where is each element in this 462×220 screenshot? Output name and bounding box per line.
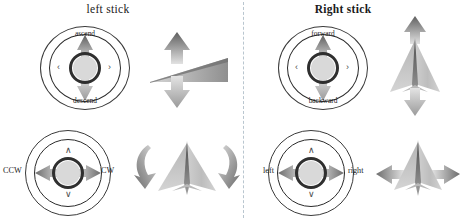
- figure-canvas: left stick Right stick ‹ › ascend descen…: [0, 0, 462, 220]
- chevron-right-icon: ›: [108, 63, 111, 72]
- chevron-down-icon: ∨: [268, 190, 354, 199]
- joystick-hub-fill[interactable]: [73, 56, 97, 80]
- joystick-hub-fill[interactable]: [299, 161, 323, 185]
- panel-title-right: Right stick: [293, 3, 393, 15]
- ring-label-forward: forward: [278, 29, 368, 38]
- chevron-right-icon: ›: [346, 63, 349, 72]
- joystick-pitch[interactable]: ‹ › forward backward: [278, 26, 368, 110]
- joystick-hub-fill[interactable]: [311, 56, 335, 80]
- side-label-cw: CW: [101, 166, 114, 175]
- chevron-up-icon: ∧: [25, 146, 111, 155]
- chevron-down-icon: ∨: [25, 190, 111, 199]
- joystick-hub-fill[interactable]: [56, 161, 80, 185]
- joystick-roll[interactable]: ∧ ∨: [268, 130, 354, 216]
- drone-side-view-climb: [150, 24, 230, 110]
- panel-title-left: left stick: [58, 3, 158, 15]
- joystick-throttle[interactable]: ‹ › ascend descend: [40, 26, 130, 110]
- chevron-left-icon: ‹: [295, 63, 298, 72]
- side-label-right: right: [348, 166, 363, 175]
- drone-top-view-yaw: [132, 133, 242, 213]
- chevron-up-icon: ∧: [268, 146, 354, 155]
- drone-top-view-pitch: [382, 14, 452, 118]
- joystick-yaw[interactable]: ∧ ∨: [25, 130, 111, 216]
- drone-top-view-roll: [374, 134, 462, 214]
- side-label-ccw: CCW: [3, 166, 22, 175]
- ring-label-backward: backward: [278, 96, 368, 105]
- side-label-left: left: [263, 166, 274, 175]
- ring-label-descend: descend: [40, 96, 130, 105]
- ring-label-ascend: ascend: [40, 29, 130, 38]
- panel-divider: [243, 2, 244, 218]
- chevron-left-icon: ‹: [57, 63, 60, 72]
